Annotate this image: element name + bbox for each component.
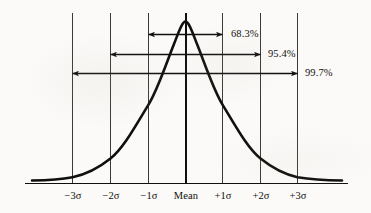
- axis-tick-minus-1-sigma: −1σ: [140, 191, 157, 202]
- axis-tick-minus-3-sigma: −3σ: [64, 191, 81, 202]
- axis-tick-plus-3-sigma: +3σ: [289, 191, 306, 202]
- axis-tick-mean: Mean: [174, 191, 198, 202]
- normal-distribution-figure: 68.3% 95.4% 99.7% −3σ −2σ −1σ Mean +1σ +…: [0, 0, 371, 213]
- band-label-99: 99.7%: [305, 68, 333, 79]
- bell-curve-plot: [0, 0, 371, 213]
- band-label-68: 68.3%: [231, 29, 259, 40]
- axis-tick-plus-1-sigma: +1σ: [214, 191, 231, 202]
- axis-tick-plus-2-sigma: +2σ: [252, 191, 269, 202]
- axis-tick-minus-2-sigma: −2σ: [102, 191, 119, 202]
- normal-curve: [32, 22, 342, 181]
- band-label-95: 95.4%: [268, 49, 296, 60]
